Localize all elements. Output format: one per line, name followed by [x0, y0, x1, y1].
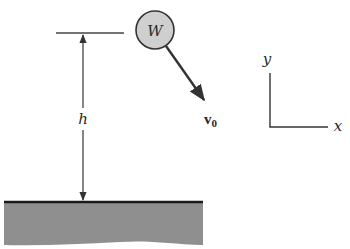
- velocity-subscript: 0: [212, 117, 218, 129]
- ground: [4, 202, 203, 245]
- x-axis-label: x: [334, 117, 343, 135]
- coordinate-axes: [269, 73, 328, 127]
- velocity-label: v0: [204, 111, 218, 129]
- y-axis-label: y: [262, 50, 272, 68]
- velocity-arrow: [166, 46, 204, 100]
- height-label: h: [78, 110, 88, 128]
- ball: W: [136, 11, 174, 49]
- ball-label: W: [147, 22, 164, 40]
- projectile-diagram: h W v0 y x: [0, 0, 350, 249]
